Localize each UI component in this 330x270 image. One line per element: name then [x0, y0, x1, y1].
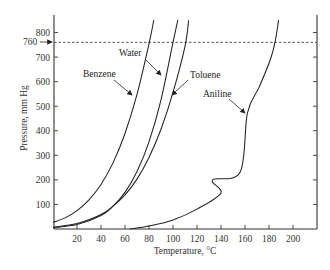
aniline-curve [130, 20, 279, 229]
x-tick-label: 60 [120, 234, 130, 244]
water-curve [53, 20, 178, 228]
x-tick-label: 180 [262, 234, 277, 244]
y-tick-label: 600 [36, 77, 51, 87]
y-tick-label: 400 [36, 126, 51, 136]
y-tick-label: 100 [36, 200, 51, 210]
x-tick-label: 40 [96, 234, 106, 244]
y-tick-label: 500 [36, 102, 51, 112]
water-annotation: Water [119, 48, 161, 75]
y-tick-label: 700 [36, 53, 51, 63]
x-axis-title: Temperature, °C [154, 246, 217, 256]
water-arrow [145, 59, 161, 75]
x-tick-label: 80 [144, 234, 154, 244]
aniline-label: Aniline [203, 89, 232, 99]
aniline-arrow [229, 99, 245, 113]
x-tick-label: 160 [238, 234, 253, 244]
y-tick-label: 300 [36, 151, 51, 161]
y-tick-label: 200 [36, 175, 51, 185]
ref-760-label: 760 [23, 37, 38, 47]
x-tick-label: 20 [72, 234, 82, 244]
vapor-pressure-chart: 2040608010012014016018020010020030040050… [0, 0, 330, 270]
x-tick-label: 200 [286, 234, 301, 244]
axis-ticks: 2040608010012014016018020010020030040050… [36, 28, 317, 244]
axes-frame [54, 15, 317, 229]
y-tick-label: 800 [36, 28, 51, 38]
x-tick-label: 140 [214, 234, 229, 244]
benzene-arrow [114, 80, 132, 95]
y-axis-title: Pressure, mm Hg [19, 85, 29, 151]
benzene-label: Benzene [83, 69, 116, 79]
toluene-label: Toluene [190, 70, 220, 80]
x-tick-label: 100 [166, 234, 181, 244]
water-label: Water [119, 48, 142, 58]
benzene-annotation: Benzene [83, 69, 132, 95]
aniline-annotation: Aniline [203, 89, 245, 113]
curves [53, 20, 279, 229]
x-tick-label: 120 [190, 234, 205, 244]
